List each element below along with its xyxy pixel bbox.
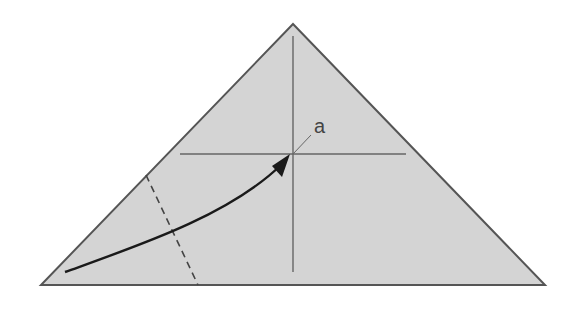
point-a-label: a [314,115,326,137]
fold-diagram: a [0,0,581,315]
